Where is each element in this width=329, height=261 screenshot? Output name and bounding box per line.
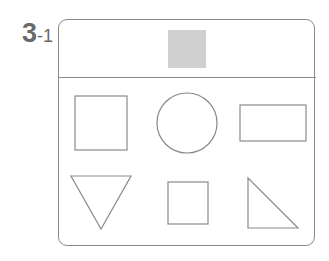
- choice-circle[interactable]: [157, 93, 217, 153]
- choice-rectangle[interactable]: [240, 105, 306, 141]
- choice-right-triangle[interactable]: [248, 178, 298, 228]
- choice-small-square[interactable]: [168, 182, 208, 224]
- choice-shapes: [0, 0, 329, 261]
- choice-square[interactable]: [75, 96, 127, 150]
- choice-inverted-triangle[interactable]: [71, 176, 131, 229]
